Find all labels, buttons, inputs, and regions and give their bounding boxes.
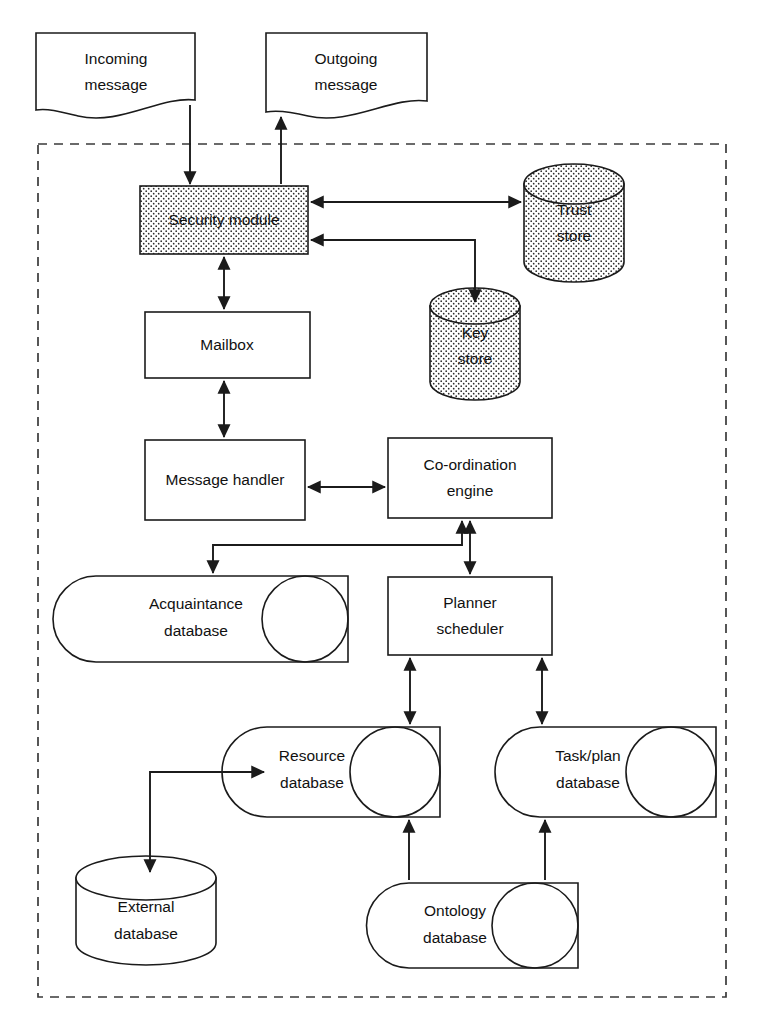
external-database-top bbox=[76, 856, 216, 900]
external-database-label-line1: External bbox=[118, 898, 175, 915]
incoming-message-label-line1: Incoming bbox=[85, 50, 148, 67]
node-planner-scheduler: Planner scheduler bbox=[388, 577, 552, 655]
node-ontology-database: Ontology database bbox=[367, 883, 579, 968]
node-key-store: Key store bbox=[430, 288, 520, 400]
architecture-diagram: Incoming message Outgoing message Securi… bbox=[0, 0, 757, 1028]
node-mailbox: Mailbox bbox=[145, 312, 310, 378]
node-coordination-engine: Co-ordination engine bbox=[388, 438, 552, 518]
node-security-module: Security module bbox=[140, 186, 308, 254]
diagram-canvas: Incoming message Outgoing message Securi… bbox=[0, 0, 757, 1028]
external-database-label-line2: database bbox=[114, 925, 178, 942]
coordination-engine-label-line2: engine bbox=[447, 482, 494, 499]
acquaintance-database-body bbox=[53, 576, 348, 662]
incoming-message-label-line2: message bbox=[85, 76, 148, 93]
node-external-database: External database bbox=[76, 856, 216, 965]
ontology-database-label-line1: Ontology bbox=[424, 902, 486, 919]
coordination-engine-label-line1: Co-ordination bbox=[423, 456, 516, 473]
resource-database-label-line2: database bbox=[280, 774, 344, 791]
acquaintance-database-label-line2: database bbox=[164, 622, 228, 639]
task-plan-database-body bbox=[495, 727, 716, 817]
key-store-label-line1: Key bbox=[462, 324, 489, 341]
key-store-label-line2: store bbox=[458, 350, 492, 367]
planner-scheduler-label-line2: scheduler bbox=[436, 620, 503, 637]
trust-store-label-line1: Trust bbox=[557, 201, 592, 218]
coordination-engine-box bbox=[388, 438, 552, 518]
task-plan-database-label-line1: Task/plan bbox=[555, 747, 620, 764]
planner-scheduler-label-line1: Planner bbox=[443, 594, 496, 611]
outgoing-message-label-line1: Outgoing bbox=[315, 50, 378, 67]
node-incoming-message: Incoming message bbox=[36, 33, 195, 118]
outgoing-message-label-line2: message bbox=[315, 76, 378, 93]
connector-coordination-acquaintance-database bbox=[213, 521, 462, 573]
acquaintance-database-label-line1: Acquaintance bbox=[149, 595, 243, 612]
ontology-database-label-line2: database bbox=[423, 929, 487, 946]
node-trust-store: Trust store bbox=[524, 164, 624, 282]
node-message-handler: Message handler bbox=[145, 440, 305, 520]
mailbox-label: Mailbox bbox=[200, 336, 254, 353]
node-outgoing-message: Outgoing message bbox=[266, 33, 427, 118]
trust-store-top bbox=[524, 164, 624, 204]
planner-scheduler-box bbox=[388, 577, 552, 655]
ontology-database-body bbox=[367, 883, 579, 968]
security-module-label: Security module bbox=[168, 211, 279, 228]
trust-store-label-line2: store bbox=[557, 227, 591, 244]
node-acquaintance-database: Acquaintance database bbox=[53, 576, 348, 662]
task-plan-database-label-line2: database bbox=[556, 774, 620, 791]
resource-database-label-line1: Resource bbox=[279, 747, 345, 764]
message-handler-label: Message handler bbox=[166, 471, 285, 488]
node-task-plan-database: Task/plan database bbox=[495, 727, 716, 817]
